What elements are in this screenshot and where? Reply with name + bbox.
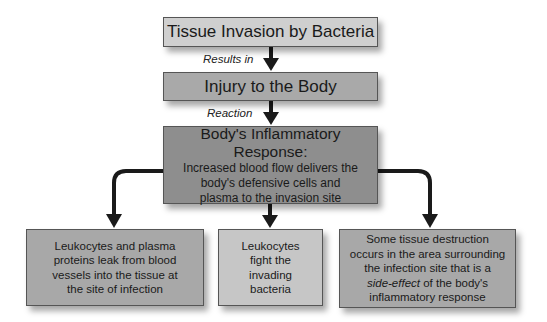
node-line: bacteria bbox=[250, 282, 291, 297]
node-line-4: side-effect of the body's bbox=[367, 276, 488, 291]
right-branch-line bbox=[378, 171, 430, 215]
edge-label-results-in: Results in bbox=[203, 53, 254, 65]
arrowhead-3 bbox=[262, 215, 278, 228]
arrowhead-right bbox=[422, 214, 438, 228]
node-label: Injury to the Body bbox=[204, 77, 336, 97]
left-branch-line bbox=[114, 171, 163, 215]
node-line: fight the bbox=[250, 253, 291, 268]
node-line-4-rest: of the body's bbox=[420, 277, 488, 289]
node-line: the infection site that is a bbox=[364, 261, 491, 276]
node-line: Some tissue destruction bbox=[366, 232, 489, 247]
arrowhead-1 bbox=[263, 58, 279, 71]
node-line: Leukocytes bbox=[241, 239, 299, 254]
node-line: occurs in the area surrounding bbox=[350, 247, 505, 262]
node-fight: Leukocytes fight the invading bacteria bbox=[218, 229, 323, 306]
node-line: the site of infection bbox=[67, 282, 163, 297]
node-tissue-invasion: Tissue Invasion by Bacteria bbox=[163, 17, 378, 47]
node-line: proteins leak from blood bbox=[54, 253, 177, 268]
node-line: plasma to the invasion site bbox=[200, 191, 341, 206]
node-inflammatory-response: Body's Inflammatory Response: Increased … bbox=[163, 126, 378, 204]
node-label: Tissue Invasion by Bacteria bbox=[167, 22, 374, 42]
node-line: invading bbox=[249, 268, 292, 283]
arrowhead-left bbox=[106, 214, 122, 228]
node-line: inflammatory response bbox=[369, 290, 485, 305]
node-line: body's defensive cells and bbox=[201, 176, 341, 191]
node-leak: Leukocytes and plasma proteins leak from… bbox=[26, 229, 204, 306]
node-line: Leukocytes and plasma bbox=[55, 239, 176, 254]
node-title: Body's Inflammatory Response: bbox=[164, 125, 377, 161]
node-line: vessels into the tissue at bbox=[52, 268, 177, 283]
side-effect-emphasis: side-effect bbox=[367, 277, 420, 289]
node-line: Increased blood flow delivers the bbox=[183, 161, 358, 176]
edge-label-reaction: Reaction bbox=[207, 107, 252, 119]
node-injury: Injury to the Body bbox=[163, 72, 378, 101]
node-tissue-destruction: Some tissue destruction occurs in the ar… bbox=[339, 229, 516, 308]
arrowhead-2 bbox=[263, 112, 279, 125]
